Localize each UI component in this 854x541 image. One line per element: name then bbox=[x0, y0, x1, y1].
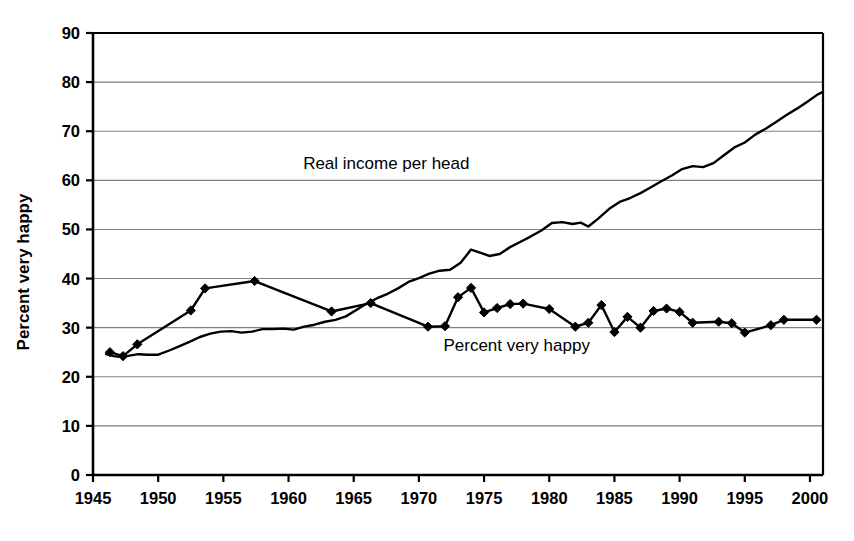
y-tick-label-40: 40 bbox=[62, 270, 80, 288]
y-axis-title: Percent very happy bbox=[14, 193, 33, 350]
plot-background bbox=[0, 0, 854, 541]
y-tick-label-60: 60 bbox=[62, 171, 80, 189]
y-tick-label-10: 10 bbox=[62, 417, 80, 435]
x-tick-label-1960: 1960 bbox=[270, 489, 307, 507]
x-tick-label-1970: 1970 bbox=[401, 489, 438, 507]
real-income-label: Real income per head bbox=[303, 154, 469, 173]
y-tick-label-70: 70 bbox=[62, 122, 80, 140]
happiness-income-line-chart: 0102030405060708090 19451950195519601965… bbox=[0, 0, 854, 541]
x-tick-label-1955: 1955 bbox=[205, 489, 242, 507]
y-tick-label-0: 0 bbox=[71, 466, 80, 484]
y-tick-label-80: 80 bbox=[62, 73, 80, 91]
x-tick-label-1950: 1950 bbox=[140, 489, 177, 507]
y-tick-label-50: 50 bbox=[62, 220, 80, 238]
x-tick-label-2000: 2000 bbox=[792, 489, 829, 507]
x-tick-label-1990: 1990 bbox=[661, 489, 698, 507]
y-tick-label-90: 90 bbox=[62, 24, 80, 42]
x-tick-label-1995: 1995 bbox=[726, 489, 763, 507]
x-tick-label-1985: 1985 bbox=[596, 489, 633, 507]
y-tick-label-30: 30 bbox=[62, 319, 80, 337]
chart-figure: 0102030405060708090 19451950195519601965… bbox=[0, 0, 854, 541]
x-tick-label-1965: 1965 bbox=[335, 489, 372, 507]
percent-very-happy-label: Percent very happy bbox=[443, 336, 590, 355]
x-tick-label-1975: 1975 bbox=[466, 489, 503, 507]
y-tick-label-20: 20 bbox=[62, 368, 80, 386]
x-tick-label-1980: 1980 bbox=[531, 489, 568, 507]
x-tick-label-1945: 1945 bbox=[75, 489, 112, 507]
